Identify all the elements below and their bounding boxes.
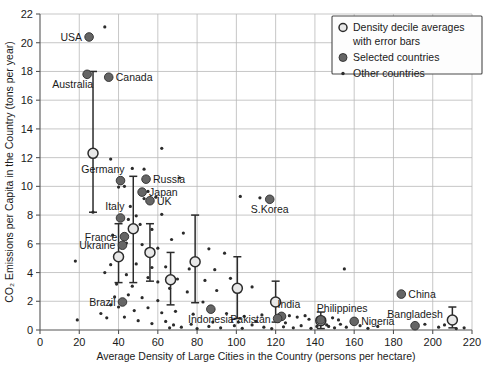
other-country-point [160,311,163,314]
other-country-point [250,285,253,288]
decile-average-marker [166,275,176,285]
country-label: India [278,298,301,310]
other-country-point [229,277,232,280]
selected-country-point [104,73,113,82]
other-country-point [219,326,222,329]
x-tick-label: 180 [384,336,402,348]
other-country-point [307,318,310,321]
selected-country-point [116,214,125,223]
other-country-point [180,326,183,329]
selected-country-point [350,317,359,326]
other-country-point [142,197,145,200]
other-country-point [127,293,130,296]
other-country-point [131,285,134,288]
other-country-point [333,326,336,329]
other-country-point [296,315,299,318]
y-tick-label: 2 [27,295,33,307]
other-country-point [174,310,177,313]
other-country-point [207,247,210,250]
other-country-point [270,327,273,330]
other-country-point [146,276,149,279]
other-country-point [215,289,218,292]
country-label: Australia [52,78,93,90]
other-country-point [156,299,159,302]
country-label: Russia [153,173,185,185]
x-tick-label: 220 [463,336,481,348]
selected-country-point [411,321,420,330]
y-tick-label: 20 [21,37,33,49]
other-country-point [109,263,112,266]
selected-country-point [118,241,127,250]
other-country-point [239,195,242,198]
decile-average-marker [145,247,155,257]
other-country-point [186,290,189,293]
selected-country-point [138,188,147,197]
other-country-point [213,268,216,271]
selected-country-point [116,176,125,185]
other-country-point [262,326,265,329]
other-country-point [117,185,120,188]
decile-average-marker [232,283,242,293]
country-label: Canada [116,71,153,83]
other-country-point [141,296,144,299]
other-country-point [135,262,138,265]
y-tick-label: 0 [27,324,33,336]
x-tick-label: 120 [266,336,284,348]
x-tick-label: 0 [37,336,43,348]
selected-country-point [118,298,127,307]
y-tick-label: 10 [21,180,33,192]
decile-average-marker [190,257,200,267]
other-country-point [168,326,171,329]
other-country-point [103,271,106,274]
other-country-point [150,322,153,325]
legend-open-circle-icon [339,24,347,32]
country-label: Bangladesh [387,308,443,320]
other-country-point [288,314,291,317]
legend-label: Other countries [353,67,425,79]
y-tick-label: 18 [21,65,33,77]
y-tick-label: 14 [21,123,33,135]
other-country-point [343,267,346,270]
x-tick-label: 20 [73,336,85,348]
other-country-point [139,223,142,226]
other-country-point [150,266,153,269]
x-tick-label: 60 [152,336,164,348]
country-label: USA [60,31,82,43]
other-country-point [164,320,167,323]
other-country-point [223,252,226,255]
other-country-point [156,247,159,250]
decile-average-marker [128,224,138,234]
y-axis-title: CO₂ Emissions per Capita in the Country … [3,41,15,302]
legend-label: Density decile averages [353,21,464,33]
other-country-point [300,324,303,327]
country-label: Brazil [89,296,115,308]
other-country-point [146,306,149,309]
x-tick-label: 80 [191,336,203,348]
other-country-point [327,325,330,328]
y-tick-label: 16 [21,94,33,106]
other-country-point [156,280,159,283]
country-label: Italy [105,200,125,212]
country-label: Germany [81,163,125,175]
country-label: Ukraine [79,239,115,251]
other-country-point [127,218,130,221]
y-tick-label: 4 [27,267,33,279]
co2-density-scatter-chart: 0246810121416182022020406080100120140160… [0,0,494,368]
selected-country-point [317,316,326,325]
y-tick-label: 6 [27,238,33,250]
legend-label: with error bars [352,35,420,47]
other-country-point [142,168,145,171]
other-country-point [284,321,287,324]
y-tick-label: 22 [21,8,33,20]
country-label: Pakistan [230,313,270,325]
other-country-point [463,326,466,329]
y-tick-label: 12 [21,152,33,164]
other-country-point [103,25,106,28]
other-country-point [443,323,446,326]
other-country-point [160,213,163,216]
selected-country-point [85,33,94,42]
other-country-point [188,267,191,270]
other-country-point [339,323,342,326]
other-country-point [201,300,204,303]
other-country-point [125,273,128,276]
